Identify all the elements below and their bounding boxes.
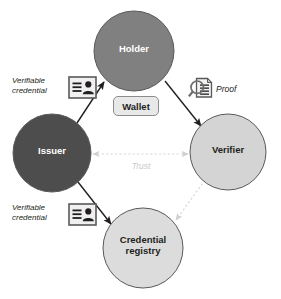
node-holder[interactable]: [94, 11, 174, 91]
edge-label-verifiable-credential-top: Verifiable credential: [12, 76, 68, 95]
wallet-label: Wallet: [122, 101, 150, 112]
edge-label-proof: Proof: [216, 84, 261, 94]
diagram-canvas: Holder Issuer Verifier Credential regist…: [0, 0, 281, 299]
edge-label-trust: Trust: [116, 161, 166, 171]
wallet-badge[interactable]: Wallet: [113, 96, 159, 116]
edge-label-verifiable-credential-bottom: Verifiable credential: [12, 203, 68, 222]
id-card-icon-top: [68, 76, 97, 99]
nodes-layer: [0, 0, 281, 299]
proof-magnifier-icon: [188, 76, 214, 102]
node-credential-registry[interactable]: [103, 208, 183, 288]
id-card-icon-bottom: [68, 203, 97, 226]
node-issuer[interactable]: [13, 114, 91, 192]
node-verifier[interactable]: [190, 114, 266, 190]
